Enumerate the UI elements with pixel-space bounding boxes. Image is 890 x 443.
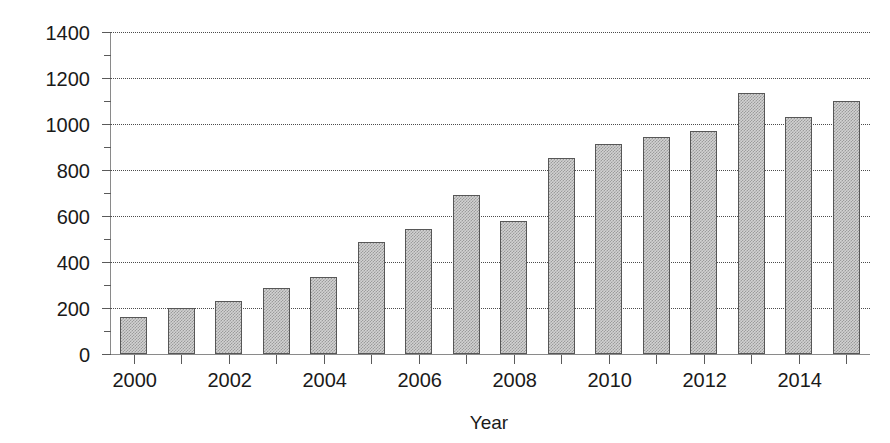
y-tick-major-800: 800 bbox=[102, 170, 111, 171]
bar-2003 bbox=[263, 288, 290, 354]
bar-2004 bbox=[310, 277, 337, 354]
x-tick-2000: 2000 bbox=[134, 355, 135, 364]
bar-2013 bbox=[738, 93, 765, 354]
y-tick-label-800: 800 bbox=[57, 160, 90, 183]
y-tick-major-200: 200 bbox=[102, 308, 111, 309]
y-tick-minor-1100 bbox=[104, 101, 111, 102]
y-tick-minor-1300 bbox=[104, 55, 111, 56]
bar-2007 bbox=[453, 195, 480, 354]
y-tick-label-0: 0 bbox=[79, 344, 90, 367]
bar-2002 bbox=[215, 301, 242, 354]
y-tick-label-1200: 1200 bbox=[46, 68, 91, 91]
y-tick-label-200: 200 bbox=[57, 298, 90, 321]
y-tick-minor-300 bbox=[104, 285, 111, 286]
y-tick-major-1000: 1000 bbox=[102, 124, 111, 125]
bar-2001 bbox=[168, 308, 195, 354]
x-tick-2005 bbox=[371, 355, 372, 364]
y-tick-major-0: 0 bbox=[102, 354, 111, 355]
x-axis-title-text: Year bbox=[470, 412, 508, 433]
x-tick-2007 bbox=[466, 355, 467, 364]
bar-2012 bbox=[690, 131, 717, 354]
x-tick-label-2002: 2002 bbox=[208, 369, 253, 392]
bar-2010 bbox=[595, 144, 622, 354]
x-tick-2008: 2008 bbox=[514, 355, 515, 364]
bar-2015 bbox=[833, 101, 860, 354]
plot-area: 0200400600800100012001400 20002002200420… bbox=[110, 32, 870, 355]
x-tick-2012: 2012 bbox=[704, 355, 705, 364]
bar-2005 bbox=[358, 242, 385, 354]
y-tick-label-400: 400 bbox=[57, 252, 90, 275]
x-tick-2001 bbox=[181, 355, 182, 364]
gridline-1200 bbox=[111, 78, 870, 79]
x-tick-label-2010: 2010 bbox=[588, 369, 633, 392]
x-tick-2003 bbox=[276, 355, 277, 364]
y-tick-major-600: 600 bbox=[102, 216, 111, 217]
y-tick-minor-700 bbox=[104, 193, 111, 194]
y-tick-label-600: 600 bbox=[57, 206, 90, 229]
y-tick-minor-900 bbox=[104, 147, 111, 148]
x-tick-2011 bbox=[656, 355, 657, 364]
x-tick-2015 bbox=[846, 355, 847, 364]
x-tick-2010: 2010 bbox=[609, 355, 610, 364]
bar-2008 bbox=[500, 221, 527, 354]
x-tick-2002: 2002 bbox=[229, 355, 230, 364]
x-tick-label-2004: 2004 bbox=[303, 369, 348, 392]
gridline-1400 bbox=[111, 32, 870, 33]
x-tick-label-2008: 2008 bbox=[493, 369, 538, 392]
x-tick-2006: 2006 bbox=[419, 355, 420, 364]
y-tick-label-1000: 1000 bbox=[46, 114, 91, 137]
x-tick-2009 bbox=[561, 355, 562, 364]
y-tick-label-1400: 1400 bbox=[46, 22, 91, 45]
y-tick-major-400: 400 bbox=[102, 262, 111, 263]
bar-2011 bbox=[643, 137, 670, 354]
x-tick-2004: 2004 bbox=[324, 355, 325, 364]
x-tick-label-2006: 2006 bbox=[398, 369, 443, 392]
x-axis-title: Year bbox=[108, 412, 870, 434]
x-tick-label-2014: 2014 bbox=[778, 369, 823, 392]
x-tick-2014: 2014 bbox=[799, 355, 800, 364]
x-tick-label-2000: 2000 bbox=[113, 369, 158, 392]
y-tick-minor-100 bbox=[104, 331, 111, 332]
bar-2009 bbox=[548, 158, 575, 354]
y-tick-minor-500 bbox=[104, 239, 111, 240]
bar-2000 bbox=[120, 317, 147, 354]
bar-2014 bbox=[785, 117, 812, 354]
x-tick-2013 bbox=[751, 355, 752, 364]
bar-chart-figure: Million sq.m. 0200400600800100012001400 … bbox=[0, 0, 890, 443]
bar-2006 bbox=[405, 229, 432, 354]
y-tick-major-1400: 1400 bbox=[102, 32, 111, 33]
x-axis-line bbox=[110, 354, 870, 355]
y-tick-major-1200: 1200 bbox=[102, 78, 111, 79]
x-tick-label-2012: 2012 bbox=[683, 369, 728, 392]
